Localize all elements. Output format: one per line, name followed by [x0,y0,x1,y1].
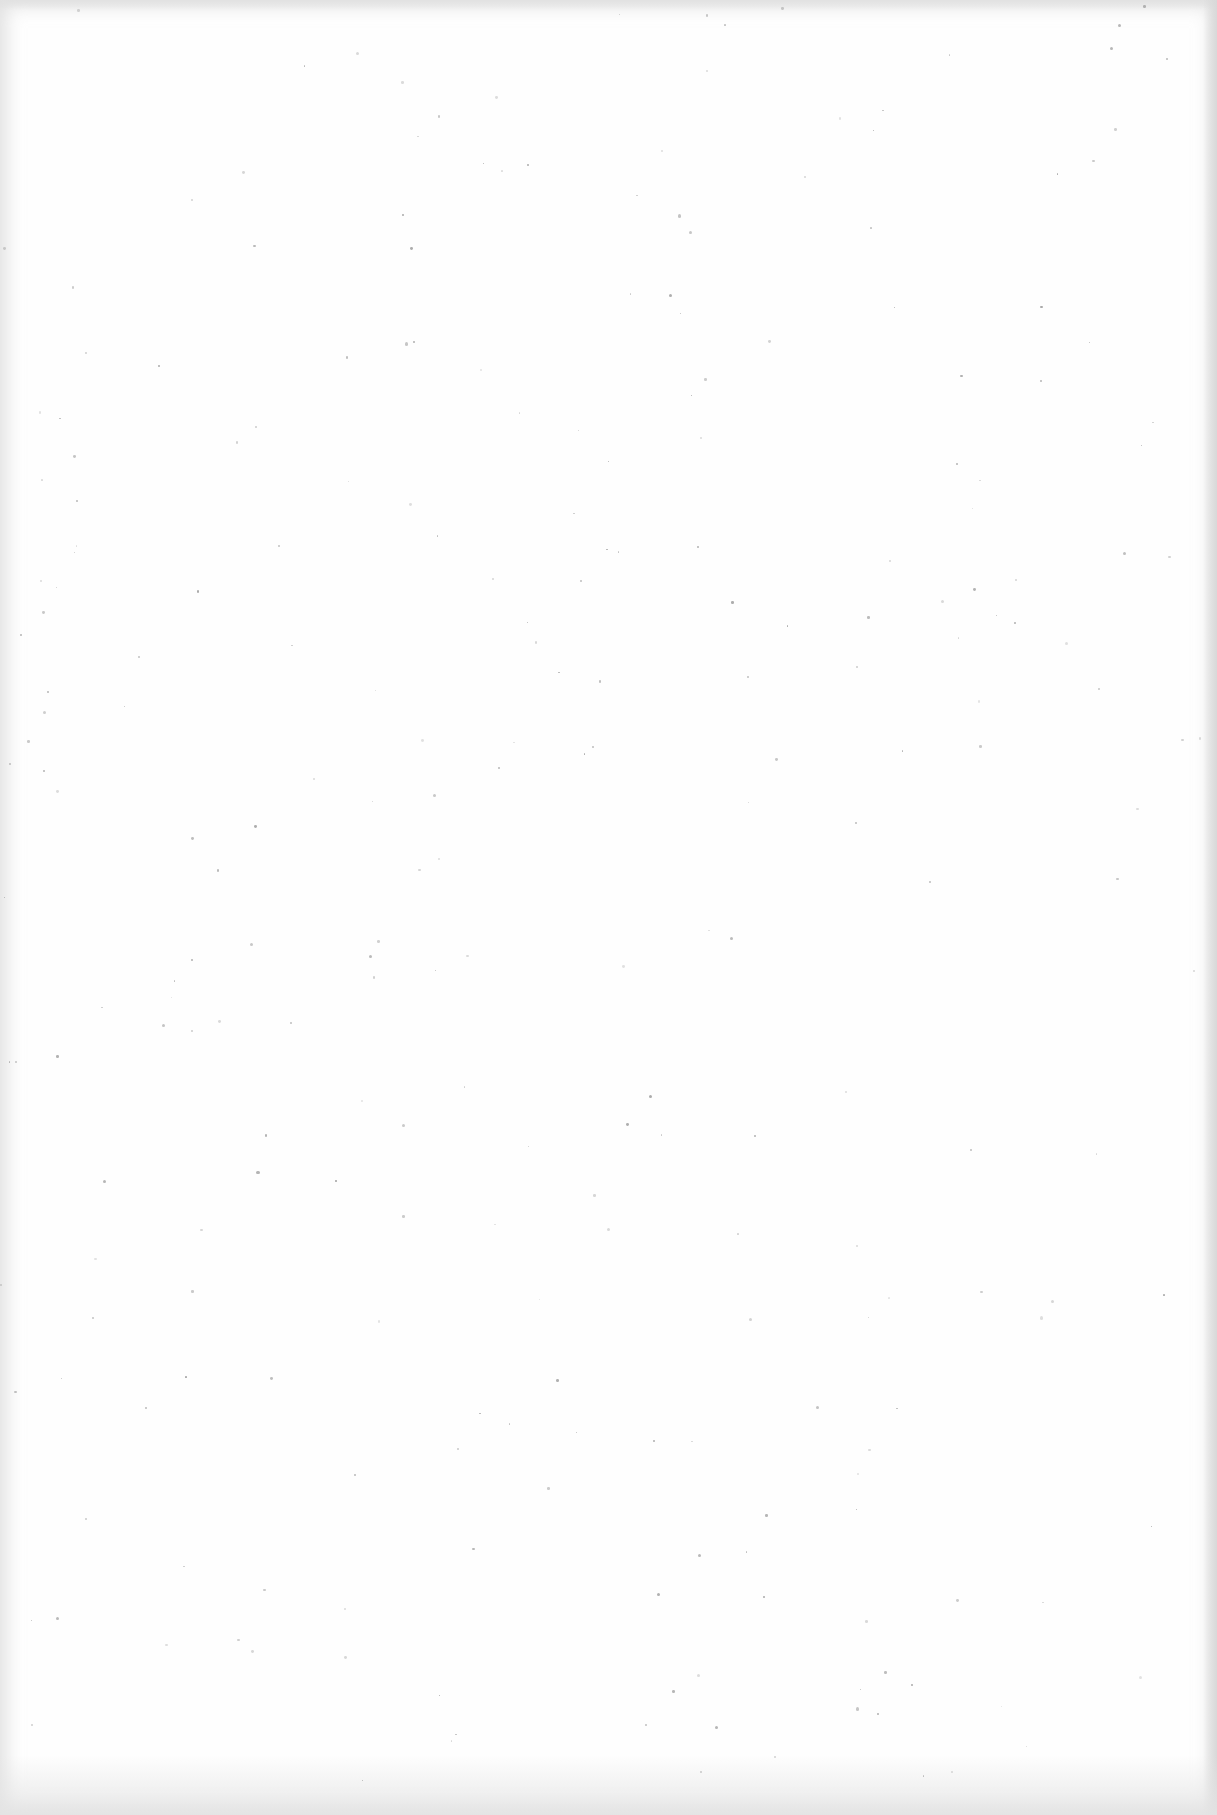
scan-speck [698,1554,701,1557]
scan-speck [584,753,586,755]
scan-speck [661,150,663,152]
scan-speck [417,136,419,138]
scan-speck [911,1684,913,1686]
scan-speck [41,479,43,481]
scan-speck [700,1771,702,1773]
scan-speck [978,700,981,703]
scan-speck [256,1171,259,1174]
scan-speck [1123,552,1126,555]
scan-speck [527,622,528,623]
scan-speck [402,1124,405,1127]
scan-speck [362,1780,363,1781]
scan-speck [606,549,608,551]
scan-speck [855,822,857,824]
scan-speck [14,1391,17,1394]
scan-speck [255,426,256,427]
scan-speck [509,1423,511,1425]
scan-speck [888,1297,890,1299]
scan-speck [1026,1746,1027,1747]
scan-speck [1116,878,1119,881]
scan-speck [669,294,672,297]
scan-speck [592,746,594,748]
scan-speck [455,1734,456,1735]
scan-speck [856,1509,857,1510]
scan-speck [1065,642,1068,645]
scan-speck [527,164,529,166]
scan-speck [996,615,997,616]
scan-speck [706,70,708,72]
scan-speck [535,641,538,644]
scan-speck [730,937,733,940]
scan-speck [361,1100,363,1102]
scan-speck [402,1215,405,1218]
scan-speck [250,943,253,946]
scan-speck [263,1589,266,1592]
scan-speck [375,690,377,692]
scan-speck [1057,173,1059,175]
scan-speck [691,1441,692,1442]
scan-speck [56,1055,59,1058]
scan-speck [498,767,500,769]
scan-speck [457,1448,459,1450]
scan-speck [1118,24,1121,27]
scan-speck [20,634,22,636]
scan-speck [313,778,315,780]
scan-speck [747,676,749,678]
scan-speck [94,1258,96,1260]
scan-speck [1114,128,1116,130]
scan-speck [576,1432,577,1433]
scan-speck [1136,808,1139,811]
scan-speck [763,1596,765,1598]
scan-speck [889,560,891,562]
scan-speck [691,395,692,396]
scan-speck [435,970,436,971]
scan-speck [31,1620,32,1621]
scan-speck [451,1740,453,1742]
scan-speck [483,163,484,164]
scan-speck [1014,622,1016,624]
scan-speck [27,740,30,743]
scan-speck [464,1086,466,1088]
scan-speck [438,858,440,860]
scan-speck [377,940,380,943]
scan-speck [185,1376,187,1378]
scan-speck [1181,739,1184,742]
scan-speck [344,1608,346,1610]
scan-speck [174,980,175,981]
scan-speck [158,365,160,367]
scan-speck [1110,47,1113,50]
scan-speck [92,1317,94,1319]
scan-speck [191,1290,194,1293]
scan-speck [344,1656,347,1659]
scan-speck [1152,422,1154,424]
scan-speck [599,680,601,682]
scan-speck [845,1091,847,1093]
blank-page [0,0,1217,1815]
scan-speck [774,1756,776,1758]
scan-speck [494,1224,495,1225]
scan-speck [265,1134,267,1136]
scan-speck [1040,380,1043,383]
scan-speck [748,802,749,803]
scan-speck [253,245,256,248]
scan-speck [1098,688,1100,690]
scan-speck [304,65,306,67]
scan-speck [556,1379,559,1382]
scan-speck [421,739,424,742]
scan-speck [401,81,404,84]
scan-speck [77,9,79,11]
scan-speck [884,1671,887,1674]
scan-speck [877,1713,879,1715]
scan-speck [242,171,245,174]
scan-speck [856,666,858,668]
scan-speck [715,1726,718,1729]
scan-speck [356,52,359,55]
scan-speck [622,965,625,968]
scan-speck [865,1620,867,1622]
scan-speck [72,286,74,288]
scan-speck [737,1233,739,1235]
scan-speck [873,130,875,132]
scan-speck [979,480,981,482]
scan-speck [291,645,293,647]
scan-speck [1143,5,1145,7]
